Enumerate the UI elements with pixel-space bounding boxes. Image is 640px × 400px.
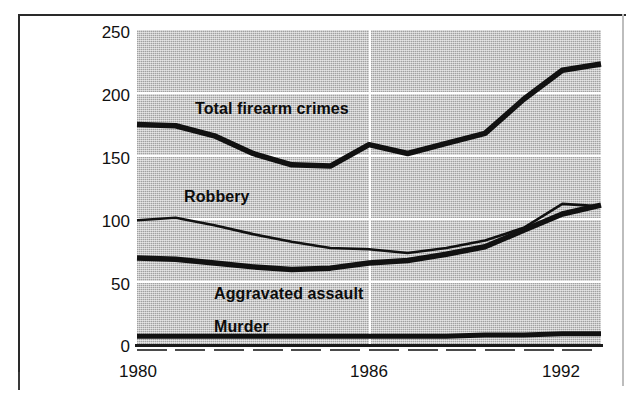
x-axis-tick [408, 349, 438, 351]
x-axis-tick [137, 349, 167, 351]
y-tick-label-250: 250 [74, 24, 130, 41]
plot-area: Total firearm crimes Robbery Aggravated … [137, 30, 601, 345]
x-axis-tick [524, 349, 554, 351]
figure-frame-left-tail [18, 372, 20, 390]
x-axis-tick [485, 349, 515, 351]
series-label-total: Total firearm crimes [195, 100, 349, 118]
y-tick-label-200: 200 [74, 87, 130, 104]
y-tick-label-100: 100 [74, 213, 130, 230]
series-line-murder [137, 334, 601, 337]
x-axis-tick [330, 349, 360, 351]
x-tick-label-1986: 1986 [329, 363, 409, 380]
x-tick-label-1980: 1980 [98, 363, 178, 380]
x-axis-tick [562, 349, 592, 351]
x-axis-tick [369, 349, 399, 351]
y-tick-label-0: 0 [74, 338, 130, 355]
x-tick-label-1992: 1992 [521, 363, 601, 380]
x-axis-tick [446, 349, 476, 351]
x-axis-tick [291, 349, 321, 351]
y-tick-label-50: 50 [74, 276, 130, 293]
x-axis-tick [214, 349, 244, 351]
series-label-murder: Murder [214, 318, 269, 336]
figure-frame-right-edge [622, 14, 624, 386]
series-line-aggravated-assault [137, 205, 601, 269]
series-label-robbery: Robbery [184, 188, 250, 206]
y-tick-label-150: 150 [74, 150, 130, 167]
x-axis-tick [253, 349, 283, 351]
x-axis-baseline [135, 344, 603, 347]
chart-screenshot: 250 200 150 100 50 0 Total firearm crime… [0, 0, 640, 400]
series-label-aggravated-assault: Aggravated assault [214, 285, 363, 303]
x-axis-tick [175, 349, 205, 351]
